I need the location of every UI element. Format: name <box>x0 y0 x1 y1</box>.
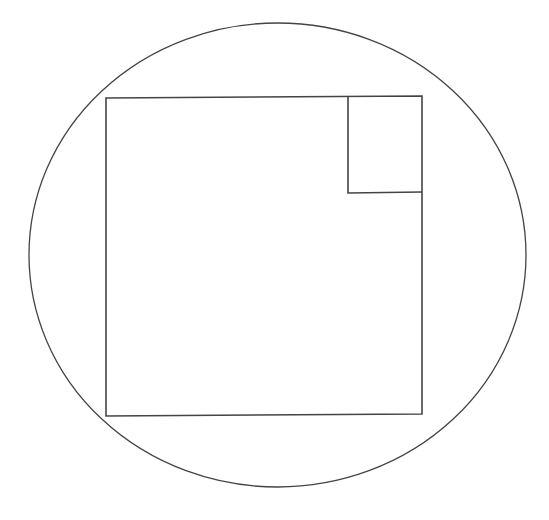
small-corner-square <box>348 96 422 193</box>
diagram-canvas <box>0 0 549 520</box>
large-square <box>106 96 422 416</box>
outer-circle <box>29 23 526 487</box>
